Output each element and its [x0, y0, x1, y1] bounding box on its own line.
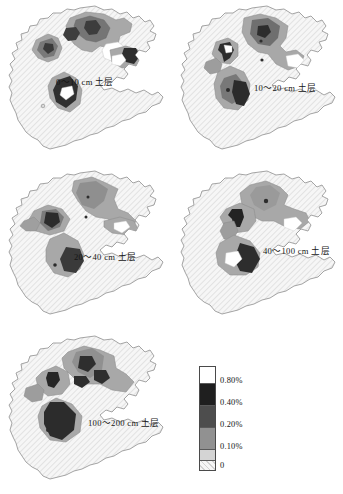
- panel-40-100: 40～100 cm 土层: [172, 165, 343, 330]
- legend-swatch-above-080: [200, 367, 215, 383]
- legend-tick-040: 0.40%: [220, 399, 243, 407]
- legend-swatch-010-020: [200, 427, 215, 449]
- panel-label-20-40: 20～40 cm 土层: [74, 253, 136, 262]
- map-svg-20-40: [0, 165, 171, 330]
- legend-swatch-000-010: [200, 449, 215, 460]
- legend-color-bar: [199, 366, 216, 471]
- point-marker: [226, 88, 230, 92]
- point-marker: [260, 58, 263, 61]
- point-marker: [259, 39, 262, 42]
- legend-tick-080: 0.80%: [220, 377, 243, 385]
- point-marker: [53, 263, 57, 267]
- legend-tick-010: 0.10%: [220, 443, 243, 451]
- panel-20-40: 20～40 cm 土层: [0, 165, 171, 330]
- point-marker: [87, 196, 90, 199]
- map-svg-100-200: [0, 330, 171, 494]
- legend-swatch-020-040: [200, 405, 215, 427]
- map-100-200: [0, 330, 171, 494]
- point-marker: [264, 199, 268, 203]
- panel-100-200: 100～200 cm 土层: [0, 330, 171, 494]
- legend-tick-020: 0.20%: [220, 421, 243, 429]
- legend: 0.80% 0.40% 0.20% 0.10% 0: [199, 366, 319, 478]
- legend-tick-000: 0: [220, 462, 224, 470]
- point-marker: [85, 216, 88, 219]
- panel-label-40-100: 40～100 cm 土层: [263, 247, 330, 256]
- point-marker: [42, 105, 43, 106]
- panel-label-0-10: 0～10 cm 土层: [56, 78, 114, 87]
- legend-swatch-040-080: [200, 383, 215, 405]
- panel-10-20: 10～20 cm 土层: [172, 0, 343, 165]
- map-20-40: [0, 165, 171, 330]
- panel-0-10: 0～10 cm 土层: [0, 0, 171, 165]
- panel-label-100-200: 100～200 cm 土层: [88, 419, 159, 428]
- panel-label-10-20: 10～20 cm 土层: [254, 84, 316, 93]
- legend-swatch-zero-hatched: [200, 460, 215, 471]
- point-marker: [46, 428, 50, 432]
- figure-soil-layer-maps: 0～10 cm 土层: [0, 0, 343, 494]
